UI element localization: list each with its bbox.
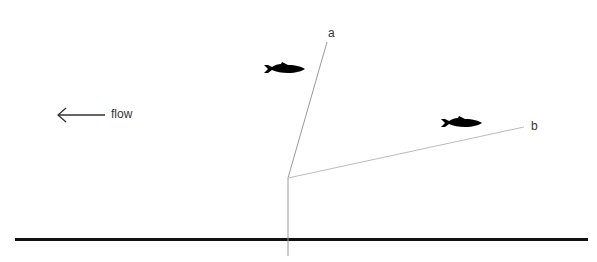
- fish-icon: [264, 62, 305, 73]
- label-a: a: [328, 26, 335, 40]
- flow-arrow-icon: [58, 108, 105, 122]
- line-b: [288, 127, 524, 178]
- fish-icon: [441, 116, 482, 127]
- line-a: [288, 42, 327, 178]
- label-b: b: [531, 119, 538, 133]
- diagram-canvas: [0, 0, 597, 262]
- flow-label: flow: [111, 107, 132, 121]
